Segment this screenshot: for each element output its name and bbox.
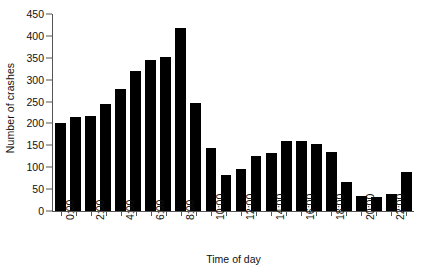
x-axis-tick-mark	[376, 211, 377, 216]
x-axis-tick-label: 16:00	[305, 194, 316, 220]
x-axis-tick-mark	[346, 211, 347, 216]
bar	[190, 103, 201, 211]
x-axis-tick-mark	[211, 211, 212, 216]
bar	[115, 89, 126, 211]
x-axis-tick-mark	[196, 211, 197, 216]
bar	[70, 117, 81, 211]
y-axis-tick-label: 450	[26, 9, 44, 20]
x-axis-tick-mark	[391, 211, 392, 216]
x-axis-tick-label: 0:00	[65, 200, 76, 220]
x-axis-title: Time of day	[53, 253, 414, 265]
y-axis-tick-label: 350	[26, 53, 44, 64]
x-axis-tick-mark	[91, 211, 92, 216]
x-axis-tick-label: 12:00	[245, 194, 256, 220]
y-axis-title-text: Number of crashes	[4, 62, 16, 152]
y-axis-tick-label: 0	[38, 206, 44, 217]
x-axis-tick-mark	[286, 211, 287, 216]
bar	[130, 71, 141, 211]
bar	[55, 123, 66, 211]
x-axis-tick-mark	[256, 211, 257, 216]
x-axis-tick-mark	[316, 211, 317, 216]
x-axis-tick-label: 14:00	[275, 194, 286, 220]
x-axis-tick-mark	[361, 211, 362, 216]
y-axis-tick-label: 150	[26, 140, 44, 151]
bar	[100, 104, 111, 211]
x-axis-tick-mark	[226, 211, 227, 216]
y-axis-title: Number of crashes	[0, 0, 20, 215]
x-axis-tick-mark	[301, 211, 302, 216]
bar	[160, 57, 171, 211]
bar	[175, 28, 186, 211]
x-axis-tick-label: 10:00	[215, 194, 226, 220]
y-axis-tick-label: 400	[26, 31, 44, 42]
y-axis-tick-labels: 050100150200250300350400450	[18, 0, 44, 215]
x-axis-tick-mark	[151, 211, 152, 216]
bar	[145, 60, 156, 211]
y-axis-tick-label: 100	[26, 162, 44, 173]
y-axis-tick-label: 300	[26, 74, 44, 85]
plot-area	[53, 14, 414, 211]
x-axis-tick-label: 6:00	[155, 200, 166, 220]
bar	[85, 116, 96, 211]
x-axis-tick-mark	[121, 211, 122, 216]
x-axis-tick-mark	[61, 211, 62, 216]
x-axis-tick-mark	[406, 211, 407, 216]
x-axis-tick-labels: 0:002:004:006:008:0010:0012:0014:0016:00…	[53, 218, 414, 250]
x-axis-tick-mark	[271, 211, 272, 216]
x-axis-tick-label: 4:00	[125, 200, 136, 220]
y-axis-tick-label: 250	[26, 96, 44, 107]
x-axis-tick-label: 22:00	[395, 194, 406, 220]
bar-chart-figure: Number of crashes 0501001502002503003504…	[0, 0, 425, 274]
y-axis-tick-label: 200	[26, 118, 44, 129]
x-axis-tick-marks	[53, 211, 414, 217]
x-axis-tick-mark	[181, 211, 182, 216]
x-axis-tick-label: 20:00	[365, 194, 376, 220]
y-axis-tick-label: 50	[32, 184, 44, 195]
x-axis-tick-label: 18:00	[335, 194, 346, 220]
x-axis-tick-label: 8:00	[185, 200, 196, 220]
x-axis-tick-label: 2:00	[95, 200, 106, 220]
x-axis-tick-mark	[331, 211, 332, 216]
x-axis-tick-mark	[241, 211, 242, 216]
